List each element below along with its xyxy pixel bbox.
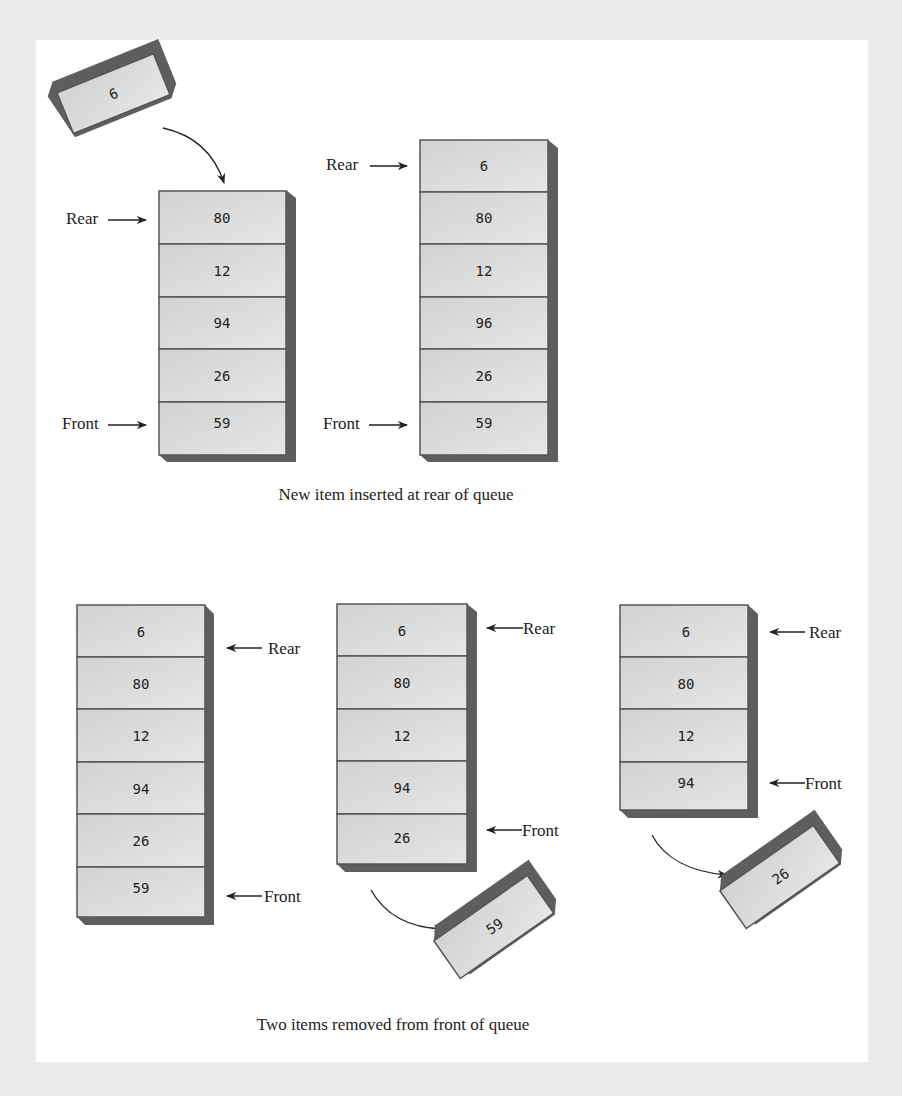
queue-cell: 6 xyxy=(337,604,467,656)
svg-text:59: 59 xyxy=(476,415,493,431)
queue-cell: 59 xyxy=(159,402,286,455)
svg-text:94: 94 xyxy=(214,315,231,331)
svg-text:12: 12 xyxy=(476,263,493,279)
svg-text:12: 12 xyxy=(678,728,695,744)
queue-1: 6 80 12 94 26 59 xyxy=(77,605,214,925)
svg-text:6: 6 xyxy=(137,624,145,640)
svg-text:12: 12 xyxy=(394,728,411,744)
queue-cell: 80 xyxy=(420,192,548,244)
remove-arrow xyxy=(371,890,443,929)
queue-cell: 94 xyxy=(620,762,748,810)
front-label: Front xyxy=(805,774,842,793)
queue-cell: 59 xyxy=(77,867,205,917)
queue-3: 6 80 12 94 xyxy=(620,605,758,818)
front-label: Front xyxy=(264,887,301,906)
svg-text:26: 26 xyxy=(394,830,411,846)
svg-text:80: 80 xyxy=(133,676,150,692)
queue-cell: 94 xyxy=(77,762,205,814)
svg-text:94: 94 xyxy=(133,781,150,797)
queue-cell: 12 xyxy=(420,244,548,297)
rear-label: Rear xyxy=(268,639,300,658)
removed-item-block: 59 xyxy=(427,860,563,980)
svg-text:59: 59 xyxy=(214,415,231,431)
svg-text:26: 26 xyxy=(214,368,231,384)
queue-cell: 59 xyxy=(420,402,548,455)
svg-text:26: 26 xyxy=(133,833,150,849)
rear-label: Rear xyxy=(523,619,555,638)
queue-cell: 94 xyxy=(337,761,467,814)
queue-cell: 12 xyxy=(159,244,286,297)
queue-cell: 6 xyxy=(620,605,748,657)
svg-text:6: 6 xyxy=(480,158,488,174)
queue-cell: 26 xyxy=(159,349,286,402)
queue-cell: 94 xyxy=(159,297,286,349)
rear-label: Rear xyxy=(809,623,841,642)
front-label: Front xyxy=(62,414,99,433)
queue-before-insert: 80 12 94 26 59 xyxy=(159,190,296,462)
svg-text:26: 26 xyxy=(476,368,493,384)
queue-cell: 80 xyxy=(159,191,286,244)
svg-text:94: 94 xyxy=(394,780,411,796)
queue-cell: 12 xyxy=(77,709,205,762)
svg-text:96: 96 xyxy=(476,315,493,331)
queue-cell: 12 xyxy=(337,709,467,761)
svg-text:80: 80 xyxy=(678,676,695,692)
svg-text:80: 80 xyxy=(476,210,493,226)
bottom-caption: Two items removed from front of queue xyxy=(257,1015,530,1034)
svg-text:80: 80 xyxy=(394,675,411,691)
queue-cell: 26 xyxy=(420,349,548,402)
incoming-item-block: 6 xyxy=(43,39,180,141)
rear-label: Rear xyxy=(326,155,358,174)
queue-cell: 26 xyxy=(77,814,205,867)
queue-cell: 96 xyxy=(420,297,548,349)
queue-cell: 6 xyxy=(420,140,548,192)
remove-arrow xyxy=(652,835,727,875)
svg-text:59: 59 xyxy=(133,880,150,896)
queue-diagram: 6 80 12 94 26 59 Rear Front 6 80 xyxy=(0,0,902,1096)
rear-label: Rear xyxy=(66,209,98,228)
queue-2: 6 80 12 94 26 xyxy=(337,604,477,872)
svg-text:6: 6 xyxy=(398,623,406,639)
front-label: Front xyxy=(323,414,360,433)
svg-text:80: 80 xyxy=(214,210,231,226)
svg-text:6: 6 xyxy=(682,624,690,640)
queue-cell: 26 xyxy=(337,814,467,864)
front-label: Front xyxy=(522,821,559,840)
queue-cell: 80 xyxy=(77,657,205,709)
top-caption: New item inserted at rear of queue xyxy=(278,485,513,504)
queue-cell: 12 xyxy=(620,709,748,762)
svg-text:12: 12 xyxy=(214,263,231,279)
removed-item-block: 26 xyxy=(713,810,849,930)
queue-cell: 80 xyxy=(337,656,467,709)
svg-text:12: 12 xyxy=(133,728,150,744)
queue-after-insert: 6 80 12 96 26 59 xyxy=(420,140,558,462)
queue-cell: 80 xyxy=(620,657,748,709)
insert-arrow xyxy=(163,128,224,183)
queue-cell: 6 xyxy=(77,605,205,657)
svg-text:94: 94 xyxy=(678,775,695,791)
